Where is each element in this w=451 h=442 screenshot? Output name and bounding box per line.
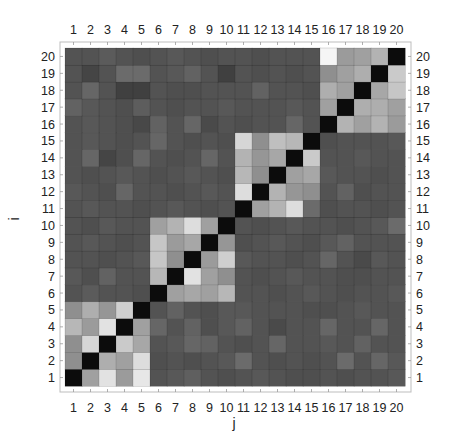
heatmap-cell-i13-j9 <box>201 166 218 183</box>
heatmap-cell-i20-j18 <box>354 48 371 65</box>
heatmap-cell-i6-j16 <box>320 285 337 302</box>
heatmap-cell-i3-j1 <box>65 335 82 352</box>
heatmap-cell-i1-j13 <box>269 369 286 386</box>
heatmap-cell-i10-j15 <box>303 217 320 234</box>
heatmap-cell-i8-j7 <box>167 251 184 268</box>
heatmap-cell-i13-j15 <box>303 166 320 183</box>
heatmap-cell-i20-j17 <box>337 48 354 65</box>
heatmap-cell-i10-j13 <box>269 217 286 234</box>
heatmap-cell-i19-j16 <box>320 65 337 82</box>
heatmap-cell-i16-j19 <box>371 116 388 133</box>
y-tick-label-right: 17 <box>416 101 430 115</box>
heatmap-cell-i10-j10 <box>218 217 235 234</box>
heatmap-cell-i1-j9 <box>201 369 218 386</box>
heatmap-cell-i10-j4 <box>116 217 133 234</box>
heatmap-cell-i6-j20 <box>388 285 405 302</box>
heatmap-cell-i17-j13 <box>269 99 286 116</box>
heatmap-cell-i7-j15 <box>303 268 320 285</box>
heatmap-cell-i11-j17 <box>337 200 354 217</box>
heatmap-cell-i18-j16 <box>320 82 337 99</box>
heatmap-cell-i5-j15 <box>303 302 320 319</box>
heatmap-cell-i14-j3 <box>99 149 116 166</box>
heatmap-cell-i17-j11 <box>235 99 252 116</box>
heatmap-cell-i12-j7 <box>167 183 184 200</box>
heatmap-cell-i7-j16 <box>320 268 337 285</box>
heatmap-cell-i18-j6 <box>150 82 167 99</box>
heatmap-cell-i8-j4 <box>116 251 133 268</box>
x-tick-label-bottom: 7 <box>172 401 179 415</box>
heatmap-cells <box>65 48 405 386</box>
heatmap-cell-i2-j14 <box>286 352 303 369</box>
heatmap-cell-i2-j1 <box>65 352 82 369</box>
heatmap-cell-i19-j1 <box>65 65 82 82</box>
heatmap-cell-i14-j11 <box>235 149 252 166</box>
heatmap-cell-i6-j7 <box>167 285 184 302</box>
heatmap-cell-i15-j5 <box>133 133 150 150</box>
x-tick-label-bottom: 17 <box>339 401 353 415</box>
heatmap-cell-i19-j15 <box>303 65 320 82</box>
heatmap-cell-i18-j19 <box>371 82 388 99</box>
heatmap-cell-i4-j13 <box>269 318 286 335</box>
heatmap-cell-i15-j7 <box>167 133 184 150</box>
heatmap-cell-i3-j2 <box>82 335 99 352</box>
heatmap-cell-i8-j14 <box>286 251 303 268</box>
heatmap-cell-i4-j6 <box>150 318 167 335</box>
heatmap-cell-i20-j4 <box>116 48 133 65</box>
heatmap-cell-i6-j19 <box>371 285 388 302</box>
heatmap-cell-i15-j8 <box>184 133 201 150</box>
heatmap-cell-i2-j8 <box>184 352 201 369</box>
heatmap-cell-i8-j11 <box>235 251 252 268</box>
heatmap-cell-i17-j3 <box>99 99 116 116</box>
heatmap-cell-i10-j20 <box>388 217 405 234</box>
heatmap-cell-i5-j13 <box>269 302 286 319</box>
x-tick-label-bottom: 2 <box>87 401 94 415</box>
heatmap-cell-i11-j1 <box>65 200 82 217</box>
heatmap-cell-i12-j14 <box>286 183 303 200</box>
x-tick-labels-bottom: 1234567891011121314151617181920 <box>70 401 403 415</box>
heatmap-cell-i13-j5 <box>133 166 150 183</box>
heatmap-cell-i10-j11 <box>235 217 252 234</box>
heatmap-cell-i4-j16 <box>320 318 337 335</box>
heatmap-cell-i19-j5 <box>133 65 150 82</box>
heatmap-cell-i9-j15 <box>303 234 320 251</box>
y-tick-label-right: 5 <box>416 303 423 317</box>
heatmap-cell-i15-j18 <box>354 133 371 150</box>
heatmap-cell-i12-j9 <box>201 183 218 200</box>
heatmap-cell-i14-j20 <box>388 149 405 166</box>
heatmap-cell-i16-j3 <box>99 116 116 133</box>
heatmap-cell-i19-j19 <box>371 65 388 82</box>
y-axis-label: i <box>6 217 22 220</box>
heatmap-cell-i6-j9 <box>201 285 218 302</box>
x-tick-label-bottom: 18 <box>356 401 370 415</box>
heatmap-cell-i9-j11 <box>235 234 252 251</box>
heatmap-cell-i19-j3 <box>99 65 116 82</box>
heatmap-cell-i5-j20 <box>388 302 405 319</box>
heatmap-cell-i6-j5 <box>133 285 150 302</box>
heatmap-cell-i19-j4 <box>116 65 133 82</box>
heatmap-cell-i5-j17 <box>337 302 354 319</box>
heatmap-cell-i18-j5 <box>133 82 150 99</box>
y-tick-label-right: 14 <box>416 151 430 165</box>
heatmap-cell-i14-j18 <box>354 149 371 166</box>
heatmap-cell-i18-j4 <box>116 82 133 99</box>
heatmap-cell-i15-j4 <box>116 133 133 150</box>
heatmap-cell-i7-j11 <box>235 268 252 285</box>
y-tick-label-left: 10 <box>41 219 55 233</box>
x-tick-label-bottom: 10 <box>220 401 234 415</box>
heatmap-cell-i2-j11 <box>235 352 252 369</box>
heatmap-cell-i20-j11 <box>235 48 252 65</box>
heatmap-cell-i11-j3 <box>99 200 116 217</box>
heatmap-cell-i8-j2 <box>82 251 99 268</box>
heatmap-cell-i18-j8 <box>184 82 201 99</box>
y-tick-label-right: 10 <box>416 219 430 233</box>
heatmap-cell-i11-j13 <box>269 200 286 217</box>
heatmap-cell-i10-j6 <box>150 217 167 234</box>
y-tick-label-left: 2 <box>48 354 55 368</box>
heatmap-cell-i20-j16 <box>320 48 337 65</box>
y-tick-label-left: 16 <box>41 118 55 132</box>
heatmap-cell-i5-j1 <box>65 302 82 319</box>
x-tick-label-bottom: 19 <box>373 401 387 415</box>
heatmap-cell-i8-j9 <box>201 251 218 268</box>
heatmap-cell-i16-j13 <box>269 116 286 133</box>
heatmap-cell-i17-j12 <box>252 99 269 116</box>
